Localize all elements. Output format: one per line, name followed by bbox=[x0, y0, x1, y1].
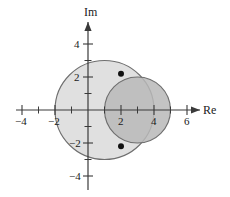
lower-intersection-point bbox=[118, 143, 124, 149]
plot-canvas bbox=[0, 0, 230, 197]
x-tick-label-4: 4 bbox=[151, 116, 157, 127]
x-tick-label--2: −2 bbox=[48, 116, 60, 127]
real-axis-label: Re bbox=[203, 104, 216, 116]
upper-intersection-point bbox=[118, 71, 124, 77]
imaginary-axis-label: Im bbox=[84, 6, 97, 18]
x-tick-label-2: 2 bbox=[118, 116, 124, 127]
x-tick-label-6: 6 bbox=[184, 116, 190, 127]
y-tick-label--4: −4 bbox=[69, 171, 81, 182]
re-axis-arrow-icon bbox=[191, 106, 200, 113]
complex-plane-figure: Im Re −4 −2 2 4 6 4 2 −2 −4 bbox=[0, 0, 230, 197]
im-axis-arrow-icon bbox=[84, 22, 91, 31]
y-tick-label-4: 4 bbox=[74, 39, 80, 50]
y-tick-label-2: 2 bbox=[74, 72, 80, 83]
y-tick-label--2: −2 bbox=[69, 138, 81, 149]
x-tick-label--4: −4 bbox=[15, 116, 27, 127]
